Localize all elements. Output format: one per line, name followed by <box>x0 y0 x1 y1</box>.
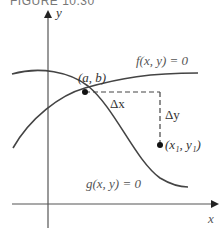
g-curve-label: g(x, y) = 0 <box>86 176 141 192</box>
dy-label: Δy <box>165 107 180 123</box>
initial-point <box>157 142 163 148</box>
diagram-canvas <box>0 0 222 241</box>
dx-label: Δx <box>110 96 125 112</box>
intersection-label: (a, b) <box>78 70 106 86</box>
initial-point-label: (x₁, y₁) <box>165 137 201 153</box>
f-curve-label: f(x, y) = 0 <box>136 53 188 69</box>
y-axis-label: y <box>56 5 62 21</box>
intersection-point <box>82 89 88 95</box>
x-axis-label: x <box>208 211 214 227</box>
curve-g <box>12 70 188 187</box>
